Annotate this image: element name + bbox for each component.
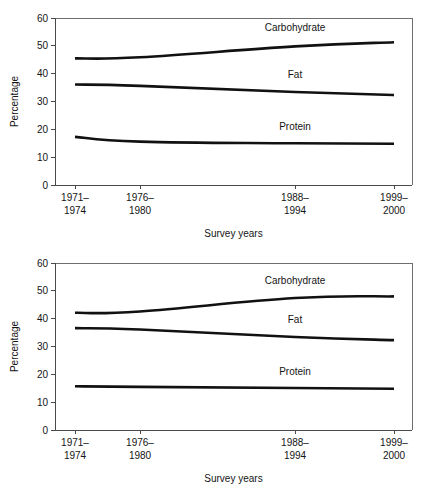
x-axis-tick-label-line2: 1994 — [284, 450, 307, 461]
y-axis-tick-label: 20 — [37, 124, 49, 135]
y-axis-tick-label: 0 — [42, 180, 48, 191]
y-axis-tick-label: 0 — [42, 425, 48, 436]
plot-frame — [55, 263, 412, 430]
x-axis-tick-label-line2: 1980 — [129, 205, 152, 216]
y-axis-title: Percentage — [9, 320, 20, 372]
x-axis-title: Survey years — [204, 473, 262, 484]
chart-panel-bottom: 0102030405060Percentage1971–19741976–198… — [0, 245, 426, 490]
y-axis-tick-label: 30 — [37, 96, 49, 107]
chart-svg-bottom: 0102030405060Percentage1971–19741976–198… — [0, 245, 426, 490]
y-axis-tick-label: 10 — [37, 397, 49, 408]
series-line-protein — [75, 386, 394, 389]
x-axis-tick-label-line2: 1994 — [284, 205, 307, 216]
x-axis-tick-label-line2: 1974 — [64, 450, 87, 461]
x-axis-tick-label-line2: 2000 — [383, 205, 406, 216]
y-axis-tick-label: 40 — [37, 313, 49, 324]
series-label-fat: Fat — [288, 69, 303, 80]
x-axis-tick-label-line2: 1974 — [64, 205, 87, 216]
y-axis-tick-label: 60 — [37, 13, 49, 24]
y-axis-title: Percentage — [9, 75, 20, 127]
series-label-carbohydrate: Carbohydrate — [265, 22, 326, 33]
y-axis-tick-label: 40 — [37, 68, 49, 79]
y-axis-tick-label: 30 — [37, 341, 49, 352]
series-label-fat: Fat — [288, 314, 303, 325]
y-axis-tick-label: 10 — [37, 152, 49, 163]
series-label-protein: Protein — [279, 121, 311, 132]
series-label-carbohydrate: Carbohydrate — [265, 275, 326, 286]
y-axis-tick-label: 50 — [37, 285, 49, 296]
series-line-fat — [75, 328, 394, 340]
series-line-carbohydrate — [75, 296, 394, 313]
x-axis-tick-label-line1: 1976– — [126, 192, 154, 203]
y-axis-tick-label: 20 — [37, 369, 49, 380]
x-axis-tick-label-line1: 1976– — [126, 437, 154, 448]
x-axis-tick-label-line1: 1971– — [61, 192, 89, 203]
plot-axes — [55, 263, 412, 430]
x-axis-tick-label-line1: 1988– — [281, 437, 309, 448]
series-label-protein: Protein — [279, 366, 311, 377]
series-line-fat — [75, 85, 394, 96]
x-axis-tick-label-line1: 1971– — [61, 437, 89, 448]
series-line-carbohydrate — [75, 42, 394, 58]
x-axis-tick-label-line2: 1980 — [129, 450, 152, 461]
x-axis-tick-label-line2: 2000 — [383, 450, 406, 461]
series-line-protein — [75, 137, 394, 144]
x-axis-tick-label-line1: 1988– — [281, 192, 309, 203]
chart-panel-top: 0102030405060Percentage1971–19741976–198… — [0, 0, 426, 245]
y-axis-tick-label: 60 — [37, 258, 49, 269]
x-axis-title: Survey years — [204, 228, 262, 239]
y-axis-tick-label: 50 — [37, 40, 49, 51]
x-axis-tick-label-line1: 1999– — [380, 437, 408, 448]
chart-svg-top: 0102030405060Percentage1971–19741976–198… — [0, 0, 426, 245]
x-axis-tick-label-line1: 1999– — [380, 192, 408, 203]
